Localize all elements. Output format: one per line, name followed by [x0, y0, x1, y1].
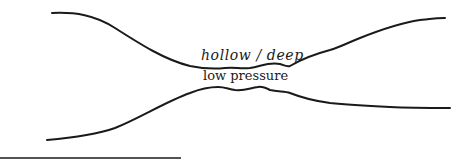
hollow-deep-label: hollow / deep — [201, 47, 304, 63]
low-pressure-label: low pressure — [203, 68, 288, 83]
lower-curve — [47, 87, 450, 140]
